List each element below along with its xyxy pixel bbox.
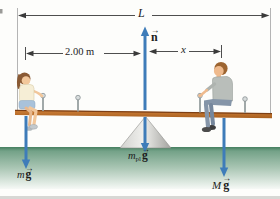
- girl-figure: [17, 73, 42, 131]
- right-distance-arrowhead-right: [214, 49, 222, 54]
- man-hand: [198, 94, 201, 97]
- plank-mass-subscript: pl: [136, 155, 141, 163]
- girl-weight-label: m→g: [17, 169, 31, 181]
- plank-length-label: L: [138, 7, 145, 19]
- left-edge-artifact: [0, 9, 3, 14]
- normal-force-arrowhead: [141, 27, 149, 37]
- man-pants: [204, 99, 232, 106]
- girl-mass-symbol: m: [17, 169, 25, 180]
- length-arrowhead-right: [262, 13, 270, 18]
- man-weight-label: M→g: [212, 179, 229, 191]
- seesaw-physics-diagram: L →n 2.00 m x m→g mpl→g M→g: [0, 0, 280, 199]
- plank-weight-label: mpl→g: [128, 150, 148, 162]
- vector-arrow-glyph: →: [223, 174, 232, 183]
- man-back-leg: [211, 105, 213, 124]
- plank-mass-symbol: m: [128, 150, 136, 161]
- man-front-shoe: [202, 127, 211, 132]
- gravity-symbol: →g: [223, 179, 229, 191]
- handle-knob: [243, 97, 248, 102]
- girl-front-shoe: [30, 124, 38, 129]
- man-shirt: [212, 77, 232, 102]
- man-mass-symbol: M: [212, 179, 221, 191]
- handle-knob: [76, 95, 81, 100]
- gravity-symbol: →g: [142, 150, 148, 162]
- right-distance-arrowhead-left: [149, 49, 157, 54]
- left-distance-arrowhead-left: [26, 51, 34, 56]
- girl-face: [22, 76, 31, 85]
- man-front-leg: [206, 104, 208, 126]
- normal-force-label: →n: [151, 31, 158, 43]
- man-figure: [198, 62, 232, 132]
- vector-arrow-glyph: →: [25, 164, 34, 173]
- left-distance-arrowhead-right: [134, 51, 142, 56]
- man-face: [214, 66, 224, 76]
- right-distance-label: x: [181, 44, 186, 55]
- normal-force-symbol: →n: [151, 31, 158, 43]
- vector-arrow-glyph: →: [151, 26, 160, 35]
- length-arrowhead-left: [18, 13, 26, 18]
- bottom-edge-artifact: [0, 196, 280, 199]
- gravity-symbol: →g: [26, 169, 32, 181]
- left-distance-label: 2.00 m: [65, 47, 94, 58]
- vector-arrow-glyph: →: [141, 145, 150, 154]
- diagram-canvas: [0, 0, 280, 199]
